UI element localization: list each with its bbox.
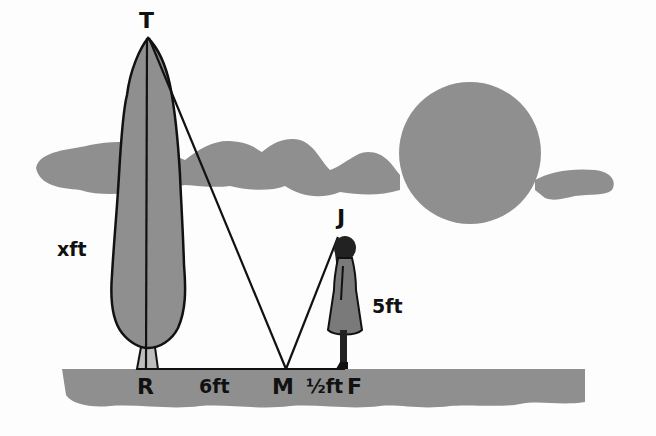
label-point-R: R [137,376,154,398]
label-point-J: J [337,207,345,229]
girl-figure [328,236,362,369]
scene-illustration [0,0,656,436]
cloud-band [36,139,400,196]
tree-canopy [111,38,185,348]
label-RM-distance: 6ft [199,377,230,396]
label-tree-height: xft [57,240,87,259]
label-point-M: M [272,376,294,398]
cloud-right [535,169,614,199]
label-girl-height: 5ft [372,297,403,316]
segment-TR [146,38,147,369]
label-point-T: T [139,10,154,32]
diagram-canvas: T J R M F xft 6ft ½ft 5ft [0,0,656,436]
tree-trunk [137,347,158,369]
segment-JM [286,237,338,369]
label-point-F: F [347,376,362,398]
label-MF-distance: ½ft [306,377,343,396]
sun-icon [399,82,541,224]
